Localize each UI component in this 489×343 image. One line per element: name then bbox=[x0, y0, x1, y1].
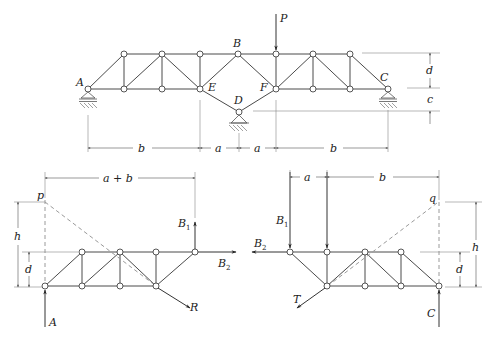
label-q-point: q bbox=[429, 192, 436, 205]
top-horizontal-dimensions: b a a b bbox=[88, 100, 388, 155]
label-a: A bbox=[75, 76, 84, 89]
label-d: D bbox=[233, 94, 243, 107]
dim-h-right: h bbox=[472, 241, 479, 254]
label-p: P bbox=[279, 12, 288, 25]
dim-d-right: d bbox=[456, 263, 463, 276]
dim-b-right-fbd: b bbox=[379, 171, 386, 184]
label-b2-right: B2 bbox=[253, 237, 267, 252]
roller-support-a-icon bbox=[79, 92, 97, 108]
dim-a-right: a bbox=[254, 142, 261, 155]
label-r: R bbox=[189, 301, 198, 314]
dim-h-left: h bbox=[14, 230, 21, 243]
left-free-body-diagram: A R B1 B2 p a + b h d bbox=[14, 172, 236, 329]
label-b: B bbox=[232, 37, 241, 50]
label-c-reaction: C bbox=[427, 307, 436, 320]
dim-c: c bbox=[427, 93, 433, 106]
force-t-arrow-icon bbox=[297, 288, 325, 308]
dim-a-right-fbd: a bbox=[304, 171, 311, 184]
label-t: T bbox=[293, 293, 302, 306]
label-e: E bbox=[207, 81, 216, 94]
pin-support-d-icon bbox=[229, 115, 249, 131]
truss-diagram: A B C D E F P b a a b bbox=[0, 0, 489, 343]
dim-a-left: a bbox=[215, 142, 222, 155]
force-r-arrow-icon bbox=[158, 288, 190, 308]
dim-a-plus-b: a + b bbox=[103, 172, 133, 185]
main-truss: A B C D E F P b a a b bbox=[75, 12, 440, 155]
dim-b-right: b bbox=[330, 142, 337, 155]
dim-d-left: d bbox=[25, 263, 32, 276]
label-b2-left: B2 bbox=[217, 257, 231, 272]
roller-support-c-icon bbox=[379, 92, 397, 108]
label-b1-right: B1 bbox=[275, 214, 289, 229]
label-f: F bbox=[259, 81, 268, 94]
right-free-body-diagram: B1 B2 T C q a b h d bbox=[252, 170, 482, 327]
label-c: C bbox=[380, 71, 389, 84]
label-a-reaction: A bbox=[48, 316, 57, 329]
label-p-point: p bbox=[37, 189, 44, 202]
dim-b-left: b bbox=[138, 142, 145, 155]
dim-d-top: d bbox=[426, 64, 433, 77]
label-b1-left: B1 bbox=[177, 217, 191, 232]
